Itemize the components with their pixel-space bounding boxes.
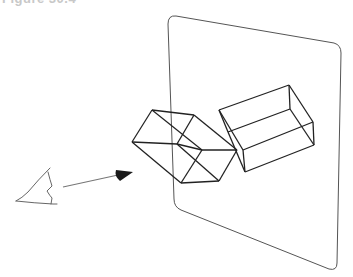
object-box: [132, 110, 237, 183]
projection-diagram: [0, 0, 353, 277]
projected-box: [219, 85, 314, 172]
eye-icon: [16, 168, 57, 204]
view-ray-arrow: [63, 170, 133, 187]
cone-icon: [116, 170, 134, 181]
picture-plane: [168, 16, 341, 270]
